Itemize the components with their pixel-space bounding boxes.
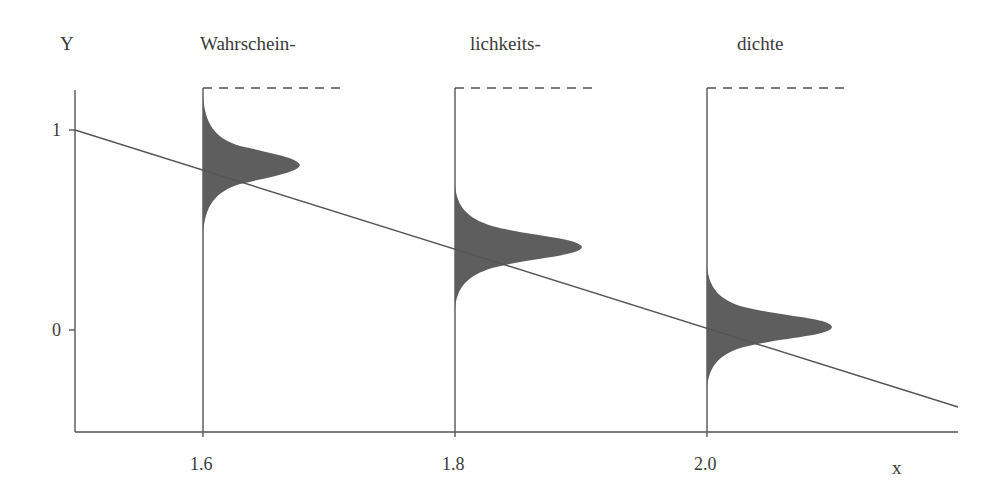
- x-tick-label-1-8: 1.8: [442, 454, 465, 474]
- title-part-3: dichte: [737, 33, 783, 54]
- y-tick-label-1: 1: [52, 120, 61, 140]
- y-axis-label: Y: [60, 33, 74, 54]
- density-2-0: [707, 266, 832, 388]
- x-axis-label: x: [892, 457, 902, 478]
- density-1-8: [455, 185, 582, 309]
- title-part-1: Wahrschein-: [200, 33, 296, 54]
- x-tick-label-2-0: 2.0: [694, 454, 717, 474]
- regression-line: [75, 130, 958, 407]
- y-tick-label-0: 0: [52, 320, 61, 340]
- regression-density-diagram: Y Wahrschein- lichkeits- dichte 1 0 1.6 …: [0, 0, 1008, 499]
- density-1-6: [203, 95, 300, 235]
- x-tick-label-1-6: 1.6: [190, 454, 213, 474]
- title-part-2: lichkeits-: [470, 33, 541, 54]
